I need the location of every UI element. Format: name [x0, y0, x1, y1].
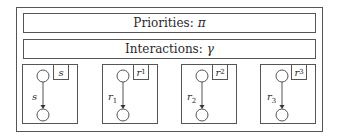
component-box: r2 r2: [181, 64, 237, 124]
state-node-final: [37, 109, 49, 121]
transition-label: s: [32, 91, 37, 105]
priorities-label: Priorities:: [133, 16, 193, 30]
state-node-initial: [117, 70, 129, 82]
state-node-final: [117, 109, 129, 121]
arrowhead-icon: [121, 105, 126, 109]
state-node-final: [276, 109, 288, 121]
priorities-symbol: π: [198, 16, 206, 30]
transition-label: r1: [108, 91, 117, 105]
arrowhead-icon: [200, 105, 205, 109]
component-box: r3 r3: [260, 64, 316, 124]
state-node-initial: [37, 70, 49, 82]
transition-label: r2: [187, 91, 196, 105]
interactions-label: Interactions:: [125, 42, 203, 56]
arrowhead-icon: [280, 105, 285, 109]
arrowhead-icon: [41, 105, 46, 109]
transition-label: r3: [267, 91, 276, 105]
interactions-band: Interactions: γ: [23, 39, 316, 59]
state-node-initial: [276, 70, 288, 82]
interactions-symbol: γ: [207, 42, 214, 56]
component-box: r1 r1: [102, 64, 158, 124]
state-node-final: [196, 109, 208, 121]
state-node-initial: [196, 70, 208, 82]
priorities-band: Priorities: π: [23, 13, 316, 33]
component-box: s s: [22, 64, 78, 124]
